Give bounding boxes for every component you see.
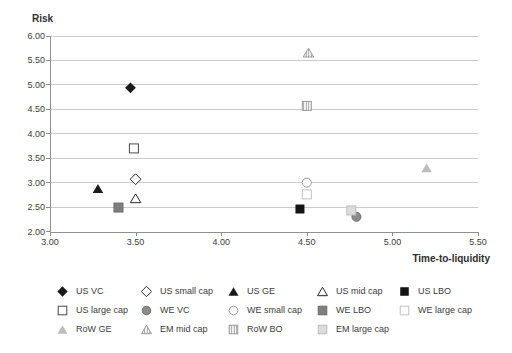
- em-mid-cap-marker-icon: [141, 324, 152, 335]
- we-small-cap-marker-icon: [228, 305, 239, 316]
- em-large-cap-marker-icon: [317, 324, 328, 335]
- legend-label: WE large cap: [418, 305, 472, 316]
- x-axis-title: Time-to-liquidity: [412, 253, 490, 264]
- legend-item-us-ge: US GE: [228, 285, 275, 297]
- legend-item-row-bo: RoW BO: [228, 323, 283, 335]
- legend-label: US VC: [76, 286, 104, 297]
- legend-label: EM mid cap: [160, 324, 208, 335]
- legend-label: US LBO: [418, 286, 451, 297]
- marker-us-lbo: [295, 205, 304, 214]
- marker-em-large-cap: [347, 206, 356, 215]
- marker-we-lbo: [114, 203, 123, 212]
- legend-label: US large cap: [76, 305, 128, 316]
- legend-label: WE small cap: [247, 305, 302, 316]
- us-large-cap-marker-icon: [57, 305, 68, 316]
- legend-item-em-mid-cap: EM mid cap: [141, 323, 208, 335]
- data-markers-layer: [0, 0, 512, 353]
- us-ge-marker-icon: [228, 286, 239, 297]
- marker-we-large-cap: [302, 190, 311, 199]
- marker-row-bo: [302, 101, 311, 110]
- legend-item-us-small-cap: US small cap: [141, 285, 213, 297]
- legend-item-we-small-cap: WE small cap: [228, 304, 302, 316]
- we-large-cap-marker-icon: [399, 305, 410, 316]
- row-ge-marker-icon: [57, 324, 68, 335]
- legend-item-us-lbo: US LBO: [399, 285, 451, 297]
- legend-item-we-large-cap: WE large cap: [399, 304, 472, 316]
- legend-label: US GE: [247, 286, 275, 297]
- legend-label: RoW BO: [247, 324, 283, 335]
- legend-item-we-vc: WE VC: [141, 304, 190, 316]
- us-vc-marker-icon: [57, 286, 68, 297]
- scatter-chart: Risk 6.005.505.004.504.003.503.002.502.0…: [0, 0, 512, 353]
- marker-us-ge: [93, 184, 104, 193]
- we-vc-marker-icon: [141, 305, 152, 316]
- legend-label: US mid cap: [336, 286, 383, 297]
- us-mid-cap-marker-icon: [317, 286, 328, 297]
- legend-item-us-large-cap: US large cap: [57, 304, 128, 316]
- marker-us-small-cap: [130, 174, 141, 185]
- legend-label: US small cap: [160, 286, 213, 297]
- us-small-cap-marker-icon: [141, 286, 152, 297]
- legend-label: RoW GE: [76, 324, 112, 335]
- marker-row-ge: [421, 164, 432, 173]
- legend-item-us-mid-cap: US mid cap: [317, 285, 383, 297]
- row-bo-marker-icon: [228, 324, 239, 335]
- marker-we-small-cap: [302, 178, 311, 187]
- us-lbo-marker-icon: [399, 286, 410, 297]
- legend-label: WE LBO: [336, 305, 371, 316]
- legend-item-us-vc: US VC: [57, 285, 104, 297]
- marker-us-vc: [125, 82, 136, 93]
- marker-us-mid-cap: [130, 194, 141, 203]
- marker-em-mid-cap: [303, 48, 314, 57]
- we-lbo-marker-icon: [317, 305, 328, 316]
- legend-item-em-large-cap: EM large cap: [317, 323, 389, 335]
- marker-us-large-cap: [129, 144, 138, 153]
- legend-label: WE VC: [160, 305, 190, 316]
- legend-item-we-lbo: WE LBO: [317, 304, 371, 316]
- legend-item-row-ge: RoW GE: [57, 323, 112, 335]
- legend-label: EM large cap: [336, 324, 389, 335]
